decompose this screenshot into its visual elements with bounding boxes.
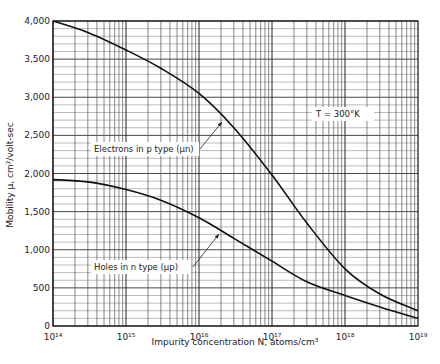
y-tick-label: 2,000: [24, 169, 50, 179]
holes-curve: [53, 180, 418, 319]
y-tick-label: 2,500: [24, 130, 50, 140]
x-tick-label: 10¹⁹: [409, 332, 428, 342]
mobility-chart: 05001,0001,5002,0002,5003,0003,5004,000 …: [0, 0, 440, 364]
y-tick-label: 3,000: [24, 92, 50, 102]
y-tick-label: 1,500: [24, 207, 50, 217]
x-tick-label: 10¹⁵: [117, 332, 136, 342]
x-axis-label: Impurity concentration N, atoms/cm³: [152, 337, 319, 347]
y-tick-label: 500: [33, 283, 50, 293]
y-axis-ticks: 05001,0001,5002,0002,5003,0003,5004,000: [24, 16, 50, 331]
y-tick-label: 0: [44, 321, 50, 331]
electrons-label: Electrons in p type (μn): [94, 144, 194, 154]
temperature-label: T = 300°K: [315, 109, 360, 119]
x-tick-label: 10¹⁸: [336, 332, 355, 342]
holes-label: Holes in n type (μp): [94, 262, 178, 272]
y-tick-label: 4,000: [24, 16, 50, 26]
chart-grid: [53, 21, 418, 326]
y-axis-label: Mobility μ, cm²/volt-sec: [5, 122, 15, 227]
holes-leader-arrow: [193, 234, 219, 267]
y-tick-label: 3,500: [24, 54, 50, 64]
y-tick-label: 1,000: [24, 245, 50, 255]
x-tick-label: 10¹⁴: [44, 332, 63, 342]
